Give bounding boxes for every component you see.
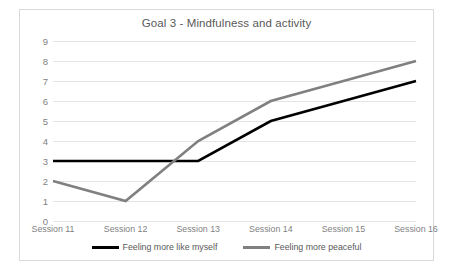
x-axis-tick-label: Session 11 [32,224,75,234]
legend-color-swatch [243,246,270,249]
y-axis-tick-label: 9 [43,36,48,47]
series-line [53,61,416,201]
x-axis-tick-label: Session 12 [104,224,148,234]
y-axis-tick-label: 7 [43,76,48,87]
y-axis-tick-label: 3 [43,156,48,167]
legend-color-swatch [92,246,119,249]
chart-legend: Feeling more like myselfFeeling more pea… [20,242,433,252]
x-axis-tick-label: Session 14 [249,224,293,234]
y-axis-tick-label: 2 [43,176,48,187]
legend-label: Feeling more peaceful [274,242,361,252]
plot-area: 0123456789 [53,41,416,221]
x-axis-tick-labels: Session 11Session 12Session 13Session 14… [53,224,416,238]
legend-item[interactable]: Feeling more like myself [92,242,218,252]
y-axis-tick-label: 5 [43,116,48,127]
legend-item[interactable]: Feeling more peaceful [243,242,361,252]
legend-label: Feeling more like myself [123,242,218,252]
x-axis-tick-label: Session 16 [394,224,438,234]
y-axis-tick-label: 1 [43,196,48,207]
series-group [53,41,416,221]
y-axis-tick-label: 4 [43,136,48,147]
gridline: 0 [53,221,416,222]
y-axis-tick-label: 6 [43,96,48,107]
x-axis-tick-label: Session 15 [322,224,366,234]
y-axis-tick-label: 8 [43,56,48,67]
chart-title: Goal 3 - Mindfulness and activity [20,17,433,29]
chart-container: Goal 3 - Mindfulness and activity 012345… [19,9,434,261]
x-axis-tick-label: Session 13 [176,224,220,234]
